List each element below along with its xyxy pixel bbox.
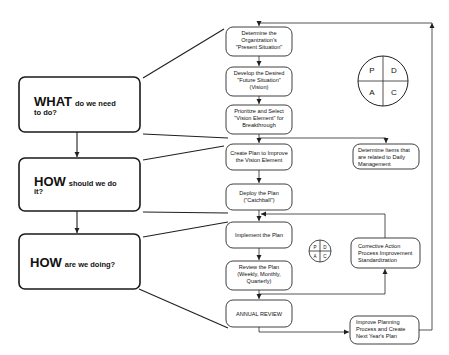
pdca-label: D [391, 66, 397, 75]
connector-loop-up [419, 23, 432, 330]
step-text: the Vision Element [236, 157, 283, 163]
side-box-improve-planning: Improve Planning Process and Create Next… [350, 316, 419, 344]
step-determine-present: Determine the Organization's "Present Si… [226, 27, 292, 56]
step-text: "Future Situation" [237, 77, 280, 83]
step-text: Implement the Plan [235, 232, 283, 238]
step-text: "Vision Element" for [234, 115, 283, 121]
question-box-how-doing: HOWare we doing? [19, 234, 140, 289]
step-text: ("Catchball") [243, 197, 274, 203]
side-box-daily-management: Determine Items that are related to Dail… [353, 144, 419, 169]
question-text: should we do [69, 179, 117, 188]
connector-loop-to-start [259, 23, 432, 26]
step-deploy-plan: Deploy the Plan ("Catchball") [226, 184, 292, 210]
question-text: do we need [75, 99, 116, 108]
question-text-line2: it? [34, 187, 44, 196]
pdca-label: A [369, 88, 375, 97]
step-text: Develop the Desired [234, 70, 285, 76]
step-implement-plan: Implement the Plan [226, 222, 292, 248]
step-text: "Present Situation" [236, 44, 283, 50]
step-text: Quarterly) [247, 278, 272, 284]
step-text: Create Plan to Improve [230, 150, 288, 156]
step-text: Organization's [241, 37, 277, 43]
step-text: Determine the [241, 30, 276, 36]
question-box-what: WHATdo we need to do? [19, 77, 140, 132]
step-text: Review the Plan [239, 264, 279, 270]
step-annual-review: ANNUAL REVIEW [226, 300, 292, 327]
step-create-plan: Create Plan to Improve the Vision Elemen… [226, 144, 292, 170]
bracket-lines [139, 29, 228, 328]
step-prioritize-select: Prioritize and Select "Vision Element" f… [226, 105, 292, 134]
step-review-plan: Review the Plan (Weekly, Monthly, Quarte… [226, 261, 292, 290]
pdca-label: C [391, 88, 397, 97]
hoshin-planning-diagram: WHATdo we need to do? HOWshould we do it… [0, 0, 449, 355]
question-text-line2: to do? [34, 108, 57, 117]
step-text: Deploy the Plan [239, 190, 279, 196]
question-box-how-should: HOWshould we do it? [19, 158, 140, 211]
side-box-text: Improve Planning [356, 319, 400, 325]
question-text: are we doing? [65, 260, 116, 269]
side-box-text: Process Improvement [358, 250, 413, 256]
side-box-text: Standardization [358, 257, 397, 263]
connector-to-daily [259, 138, 386, 143]
side-box-corrective-action: Corrective Action Process Improvement St… [351, 238, 420, 268]
pdca-label: P [313, 245, 316, 250]
step-text: ANNUAL REVIEW [236, 311, 283, 317]
pdca-cycle-icon-small: P D A C [309, 240, 331, 262]
side-box-text: Corrective Action [358, 243, 400, 249]
question-keyword: HOW [30, 255, 63, 270]
step-text: (Vision) [250, 84, 269, 90]
side-box-text: Management [358, 161, 391, 167]
step-text: Breakthrough [242, 122, 276, 128]
step-text: (Weekly, Monthly, [237, 271, 281, 277]
connector-annual-to-improve [259, 327, 349, 332]
side-box-text: Next Year's Plan [356, 333, 397, 339]
step-develop-future: Develop the Desired "Future Situation" (… [226, 67, 292, 96]
side-box-text: are related to Daily [358, 154, 405, 160]
step-text: Prioritize and Select [234, 108, 284, 114]
pdca-cycle-icon-large: P D A C [358, 56, 408, 106]
side-box-text: Determine Items that [358, 147, 410, 153]
question-keyword: WHAT [34, 94, 72, 109]
pdca-label: P [369, 66, 374, 75]
side-box-text: Process and Create [356, 326, 405, 332]
